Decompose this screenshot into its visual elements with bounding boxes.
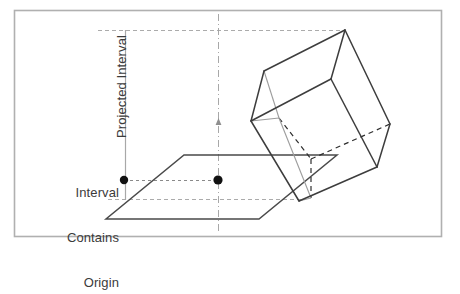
interval-endpoint-dot	[120, 176, 128, 184]
axis-arrow-tick-icon	[216, 118, 222, 125]
separating-plane	[106, 155, 337, 219]
interval-contains-origin-line-1: Interval	[67, 185, 119, 200]
projected-interval-label: Projected Interval	[114, 35, 129, 138]
interval-contains-origin-label: Interval Contains Origin	[67, 155, 119, 294]
interval-contains-origin-line-2: Contains	[67, 230, 119, 245]
interval-contains-origin-line-3: Origin	[67, 275, 119, 290]
origin-dot	[213, 175, 222, 184]
cube-solid-edges	[251, 30, 390, 201]
